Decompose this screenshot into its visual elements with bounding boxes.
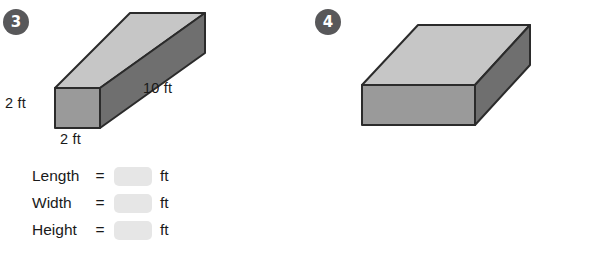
dimension-label-length-3: 10 ft xyxy=(143,80,172,96)
equals-sign-length-3: = xyxy=(90,167,110,185)
dimension-label-width-3: 2 ft xyxy=(60,131,81,147)
answer-label-height-3: Height xyxy=(32,221,90,239)
problem-3: 3 2 ft 2 ft 10 ft Length = ft Width = f xyxy=(0,0,296,265)
dimension-label-height-3: 2 ft xyxy=(5,95,26,111)
answer-unit-height-3: ft xyxy=(160,221,169,239)
answer-input-length-3[interactable] xyxy=(114,167,152,186)
answer-input-width-3[interactable] xyxy=(114,194,152,213)
prism-front-face-3 xyxy=(55,88,100,128)
answer-unit-length-3: ft xyxy=(160,167,169,185)
answer-input-height-3[interactable] xyxy=(114,221,152,240)
equals-sign-height-3: = xyxy=(90,221,110,239)
answer-row-length-3: Length = ft xyxy=(32,163,169,189)
answer-block-3: Length = ft Width = ft Height = ft xyxy=(32,163,169,244)
rectangular-prism-figure-4 xyxy=(340,10,590,145)
worksheet-page: 3 2 ft 2 ft 10 ft Length = ft Width = f xyxy=(0,0,591,265)
answer-label-width-3: Width xyxy=(32,194,90,212)
answer-row-height-3: Height = ft xyxy=(32,217,169,243)
answer-row-width-3: Width = ft xyxy=(32,190,169,216)
rectangular-prism-figure-3 xyxy=(0,0,215,150)
problem-4: 4 2 yd 6 yd 8 yd Length = yd Width = yd xyxy=(295,0,591,265)
prism-front-face-4 xyxy=(362,85,475,125)
answer-unit-width-3: ft xyxy=(160,194,169,212)
answer-label-length-3: Length xyxy=(32,167,90,185)
problem-number-badge-4: 4 xyxy=(315,9,341,35)
equals-sign-width-3: = xyxy=(90,194,110,212)
